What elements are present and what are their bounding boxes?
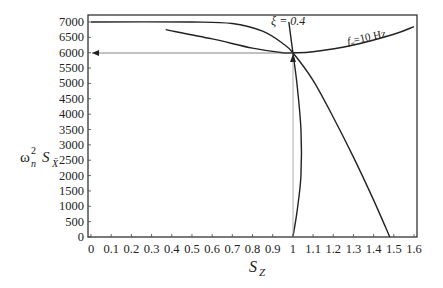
x-tick-label: 0.3 — [144, 242, 160, 256]
y-tick-label: 4500 — [59, 92, 84, 106]
y-tick-label: 1000 — [59, 199, 84, 213]
curve-0 — [91, 22, 390, 237]
y-tick-label: 3500 — [59, 123, 84, 137]
xi-annotation: ξ = 0.4 — [271, 14, 305, 28]
x-tick-label: 1.4 — [366, 242, 382, 256]
y-tick-label: 2500 — [59, 153, 84, 167]
svg-text:n: n — [31, 158, 36, 169]
y-tick-label: 0 — [78, 230, 84, 244]
x-tick-label: 1 — [290, 242, 296, 256]
y-tick-label: 1500 — [59, 184, 84, 198]
x-tick-label: 1.6 — [406, 242, 422, 256]
y-tick-label: 4000 — [59, 107, 84, 121]
x-tick-label: 0.6 — [204, 242, 220, 256]
x-tick-label: 1.5 — [386, 242, 402, 256]
chart: 0500100015002000250030003500400045005000… — [0, 0, 443, 288]
y-tick-label: 2000 — [59, 169, 84, 183]
svg-text:2: 2 — [31, 145, 36, 156]
x-tick-label: 0.5 — [184, 242, 200, 256]
curve-2 — [289, 22, 302, 237]
x-tick-label: 0.8 — [245, 242, 261, 256]
y-tick-label: 5500 — [59, 61, 84, 75]
y-tick-label: 5000 — [59, 76, 84, 90]
arrow-left-icon — [92, 50, 99, 56]
y-tick-label: 6500 — [59, 30, 84, 44]
y-axis-ticks: 0500100015002000250030003500400045005000… — [59, 15, 91, 244]
x-tick-label: 0.9 — [265, 242, 281, 256]
svg-text:ω: ω — [20, 149, 30, 165]
svg-text:Z: Z — [259, 266, 266, 278]
svg-text:fn=10 Hz: fn=10 Hz — [346, 27, 388, 49]
svg-text:Ẍ: Ẍ — [51, 158, 59, 169]
x-tick-label: 0.1 — [103, 242, 119, 256]
svg-text:S: S — [249, 258, 257, 275]
y-tick-label: 3000 — [59, 138, 84, 152]
y-tick-label: 500 — [65, 215, 84, 229]
x-tick-label: 0.2 — [124, 242, 140, 256]
svg-text:S: S — [42, 149, 50, 165]
y-tick-label: 7000 — [59, 15, 84, 29]
x-axis-label: S Z — [249, 258, 266, 278]
y-tick-label: 6000 — [59, 46, 84, 60]
fn-annotation: fn=10 Hz — [346, 27, 388, 49]
x-tick-label: 0.7 — [225, 242, 241, 256]
x-tick-label: 1.1 — [305, 242, 321, 256]
reference-lines — [92, 50, 296, 237]
y-axis-label: ω 2 n S Ẍ — [20, 145, 59, 169]
x-tick-label: 1.3 — [346, 242, 362, 256]
x-tick-label: 1.2 — [325, 242, 341, 256]
x-tick-label: 0 — [88, 242, 94, 256]
x-tick-label: 0.4 — [164, 242, 180, 256]
curves — [91, 22, 414, 237]
